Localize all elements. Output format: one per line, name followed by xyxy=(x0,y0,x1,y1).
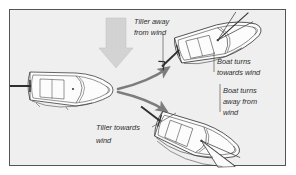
label-tiller-towards-wind-line-2: wind xyxy=(96,136,112,145)
label-boat-turns-away-from-wind-line-2: away from xyxy=(223,97,257,106)
label-tiller-away-from-wind-line-1: Tiller away xyxy=(134,17,171,26)
label-boat-turns-away-from-wind-line-1: Boat turns xyxy=(223,86,257,95)
label-tiller-towards-wind-line-1: Tiller towards xyxy=(96,123,140,132)
label-boat-turns-towards-wind-line-1: Boat turns xyxy=(217,57,251,66)
label-boat-turns-away-from-wind-line-3: wind xyxy=(223,108,239,117)
sailing-diagram-figure: Tiller away from wind Boat turns towards… xyxy=(0,0,296,175)
label-tiller-away-from-wind-line-2: from wind xyxy=(134,28,167,37)
label-boat-turns-towards-wind-line-2: towards wind xyxy=(217,68,261,77)
diagram-canvas: Tiller away from wind Boat turns towards… xyxy=(0,0,296,175)
